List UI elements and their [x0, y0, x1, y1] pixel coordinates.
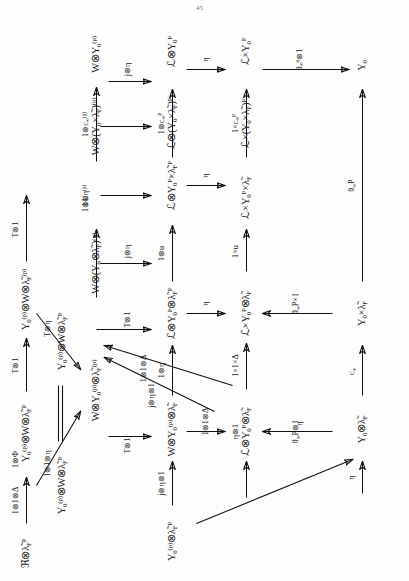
arrow-label: 1⊗Φ — [12, 450, 20, 467]
arrow-label: T⊗η — [44, 320, 52, 336]
arrow-label: 1⊗1⊗η — [44, 450, 52, 476]
diagram-node: Y0×λ̃F — [356, 301, 368, 326]
diagram-node: ℒ⊗(Y0×λ̃F)P — [166, 97, 178, 149]
arrow-label: j⊗η⊗1 — [148, 383, 156, 408]
arrow-label: T⊗1 — [12, 357, 20, 373]
diagram-node: ℒ×Y0P×λ̃F — [240, 176, 252, 218]
diagram-node: Y0(p)⊗W⊗λ̃F(p) — [20, 268, 32, 329]
diagram-node: Y0(p)⊗W⊗λ̃FP — [56, 312, 68, 370]
arrow-label: 1⊗1⊗Δ — [140, 354, 148, 381]
arrow-label: j⊗η — [124, 244, 132, 258]
arrow-label: 1⊗u — [158, 245, 166, 260]
arrow-label: 1⊗c∞(p) — [81, 112, 90, 137]
arrow-label: 1×u — [232, 245, 240, 258]
arrow-label: θ∞P⊗1 — [292, 419, 301, 442]
diagram-node: ℒ⊗Y0P×λ̃FP — [166, 161, 178, 210]
diagram-node: ℒ⊗Y0P⊗λ̃F — [240, 407, 252, 455]
arrow-label: η — [202, 301, 210, 305]
diagram-node: ℜ⊗λ̃FP — [20, 538, 32, 568]
arrow-label: θ∞P×1 — [292, 292, 301, 313]
diagram-node: Y0(p)⊗W⊗λ̃FP — [20, 404, 32, 462]
arrow-label: θ∞P — [348, 179, 357, 191]
diagram-node: ℒ⊗Y0P⊗λ̃FP — [166, 287, 178, 339]
arrow-label: η⊗1 — [232, 423, 240, 438]
diagram-node: ℒ×Y0P — [240, 37, 252, 65]
arrow-label: j⊗η — [124, 62, 132, 76]
diagram-node: Y0 — [356, 60, 368, 71]
arrow-label: j⊗η⊗1 — [158, 471, 166, 496]
arrow-label: θ∞#⊗1 — [295, 48, 304, 70]
arrow-label: 1⊗η(p) — [82, 184, 90, 206]
diagram-node: Y0(p)⊗λ̃FP — [166, 521, 178, 560]
diagram-node: W⊗(Y0⊗λ̃F)(p) — [90, 233, 102, 294]
arrow-label: T⊗1 — [12, 221, 20, 237]
scanned-page-sheet: 45 — [0, 0, 409, 581]
arrow-label: η — [202, 173, 210, 177]
diagram-node: ℒ⊗Y0P — [166, 36, 178, 67]
diagram-node: ℒ×(Y0×λ̃F)P — [240, 99, 252, 148]
arrow-label: 1×1×Δ — [232, 354, 240, 377]
arrow-label: 1⊗1⊗Δ — [12, 486, 20, 513]
arrow-label: 1⊗c∞P — [157, 112, 166, 134]
diagram-node: Y0⊗λ̃F — [356, 415, 368, 443]
arrow-label: c∞ — [348, 367, 357, 375]
arrow-label: η — [202, 57, 210, 61]
diagram-node: Y0(p)⊗W⊗λ̃FP — [56, 456, 68, 514]
arrow-label: η — [348, 475, 356, 479]
arrow-label: 1⊗η — [158, 362, 166, 377]
arrow-label: 1⊗1⊗Δ — [202, 407, 210, 434]
diagram-node: W⊗Y0(p) — [90, 36, 102, 73]
arrow-label: T⊗1 — [124, 437, 132, 453]
commutative-diagram: ℜ⊗λ̃FP Y0(p)⊗W⊗λ̃FP Y0(p)⊗W⊗λ̃F(p) Y0(p)… — [0, 0, 409, 581]
diagram-node: W⊗Y0(p)⊗λ̃F(p) — [90, 359, 102, 421]
diagram-node: W⊗(Y0×λ̃F)(p) — [90, 97, 102, 155]
diagram-node: ℒ×Y0P⊗λ̃F — [240, 290, 252, 335]
arrow-label: 1×c∞P — [231, 113, 240, 132]
arrow-label: T⊗1 — [124, 311, 132, 327]
diagram-node: W⊗Y0(p)⊗λ̃F — [166, 402, 178, 456]
